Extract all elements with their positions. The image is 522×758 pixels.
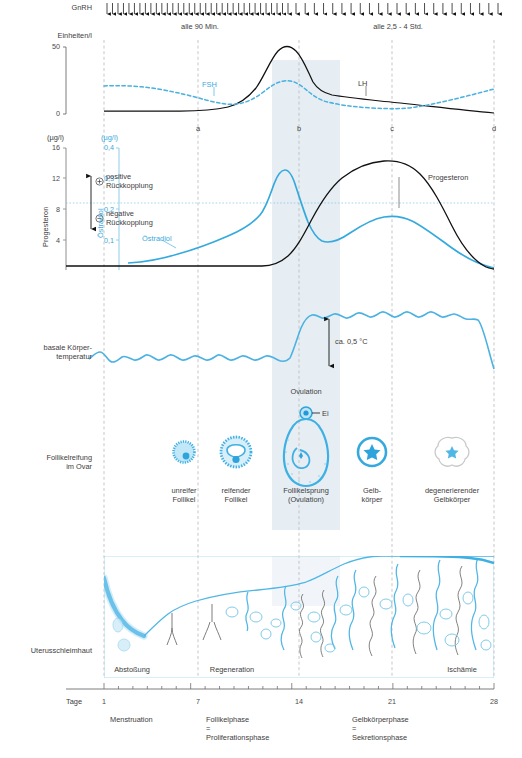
ovary-panel-label: Follikelreifung im Ovar bbox=[46, 453, 92, 471]
figure-canvas bbox=[0, 0, 522, 758]
day-tick-label-21: 21 bbox=[388, 697, 396, 706]
phase-marker-a: a bbox=[196, 124, 200, 133]
corpus-albicans-illustration bbox=[435, 437, 469, 466]
progesterone-ytick-16: 16 bbox=[52, 143, 60, 152]
progesterone-ytick-12: 12 bbox=[52, 174, 60, 183]
egg-label: Ei bbox=[322, 409, 329, 418]
estradiol-ytick-04: 0,4 bbox=[104, 143, 114, 152]
gonadotropin-y-axis-label: Einheiten/l bbox=[57, 31, 92, 40]
ovary-stage-label-3: Gelb- körper bbox=[362, 486, 383, 504]
negative-feedback-label: negative Rückkopplung bbox=[106, 209, 153, 227]
progesterone-ytick-4: 4 bbox=[56, 236, 60, 245]
endometrium-annotation-2: Ischämie bbox=[447, 665, 477, 674]
phase-label-luteal: Gelbkörperphase = Sekretionsphase bbox=[352, 715, 409, 742]
lh-series-label: LH bbox=[358, 79, 367, 88]
ovary-stage-label-4: degenerierender Gelbkörper bbox=[425, 486, 479, 504]
positive-feedback-label: positive Rückkopplung bbox=[106, 172, 153, 190]
estradiol-axis-title: Östradiol bbox=[96, 208, 105, 238]
gonadotropin-ytick-0: 0 bbox=[56, 109, 60, 118]
ovulation-band bbox=[272, 60, 340, 530]
estradiol-unit-label: (µg/l) bbox=[101, 133, 118, 142]
bbt-label: basale Körper- temperatur bbox=[44, 343, 92, 361]
time-axis bbox=[66, 683, 494, 689]
gnrh-pulse-arrows bbox=[107, 3, 498, 14]
follicle-maturing-illustration bbox=[221, 437, 252, 468]
endometrium-annotation-0: Abstoßung bbox=[114, 665, 150, 674]
follicle-immature-illustration bbox=[174, 442, 195, 463]
phase-marker-c: c bbox=[390, 124, 394, 133]
estradiol-ytick-01: 0,1 bbox=[104, 236, 114, 245]
time-axis-label: Tage bbox=[66, 697, 82, 706]
phase-marker-b: b bbox=[297, 124, 301, 133]
gnrh-right-pulse-label: alle 2,5 - 4 Std. bbox=[373, 22, 423, 31]
estradiol-series-label: Östradiol bbox=[142, 234, 172, 243]
ovulation-band-lower bbox=[272, 556, 340, 606]
progesterone-series-label: Progesteron bbox=[428, 173, 468, 182]
fsh-series-label: FSH bbox=[202, 80, 217, 89]
day-tick-label-7: 7 bbox=[196, 697, 200, 706]
progesterone-unit-label: (µg/l) bbox=[47, 133, 64, 142]
ovary-stage-label-0: unreifer Follikel bbox=[171, 486, 196, 504]
ovulation-label: Ovulation bbox=[290, 387, 321, 396]
corpus-luteum-illustration bbox=[358, 438, 386, 466]
phase-label-follicular: Follikelphase = Proliferationsphase bbox=[206, 715, 269, 742]
phase-label-menstruation: Menstruation bbox=[110, 715, 153, 724]
ovary-stage-label-2: Follikelsprung (Ovulation) bbox=[283, 486, 329, 504]
bbt-delta-label: ca. 0,5 °C bbox=[335, 337, 368, 346]
day-tick-label-1: 1 bbox=[102, 697, 106, 706]
endometrium-panel-label: Uterusschleimhaut bbox=[31, 646, 92, 655]
ovary-stage-label-1: reifender Follikel bbox=[221, 486, 250, 504]
phase-marker-d: d bbox=[492, 124, 496, 133]
gnrh-label: GnRH bbox=[71, 3, 92, 12]
gonadotropin-ytick-50: 50 bbox=[52, 42, 60, 51]
progesterone-axis-title: Progesteron bbox=[41, 207, 50, 247]
gnrh-left-pulse-label: alle 90 Min. bbox=[181, 22, 219, 31]
day-tick-label-28: 28 bbox=[490, 697, 498, 706]
progesterone-ytick-8: 8 bbox=[56, 205, 60, 214]
day-tick-label-14: 14 bbox=[295, 697, 303, 706]
endometrium-annotation-1: Regeneration bbox=[210, 665, 254, 674]
